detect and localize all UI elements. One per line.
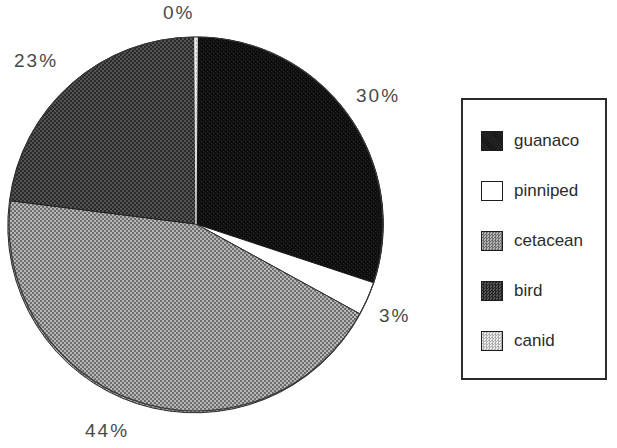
chart-legend: guanaco pinniped cetacean bird canid <box>461 98 607 380</box>
legend-item-canid: canid <box>481 316 605 366</box>
legend-item-cetacean: cetacean <box>481 216 605 266</box>
legend-label-pinniped: pinniped <box>514 181 578 201</box>
legend-swatch-bird <box>481 281 503 301</box>
legend-label-bird: bird <box>514 281 542 301</box>
pie-chart-figure: 0% 23% 30% 3% 44% guanaco pinniped cetac… <box>0 0 617 448</box>
legend-label-canid: canid <box>514 331 555 351</box>
legend-swatch-canid <box>481 331 503 351</box>
legend-label-cetacean: cetacean <box>514 231 583 251</box>
legend-swatch-cetacean <box>481 231 503 251</box>
pie-chart-area: 0% 23% 30% 3% 44% <box>0 0 450 448</box>
legend-swatch-guanaco <box>481 131 503 151</box>
pie-label-canid: 0% <box>163 2 194 24</box>
pie-label-pinniped: 3% <box>379 305 410 327</box>
pie-label-bird: 23% <box>14 50 58 72</box>
pie-chart-svg <box>0 0 450 448</box>
legend-label-guanaco: guanaco <box>514 131 579 151</box>
legend-item-guanaco: guanaco <box>481 116 605 166</box>
pie-label-guanaco: 30% <box>356 85 400 107</box>
legend-item-pinniped: pinniped <box>481 166 605 216</box>
pie-label-cetacean: 44% <box>85 420 129 442</box>
legend-swatch-pinniped <box>481 181 503 201</box>
legend-item-bird: bird <box>481 266 605 316</box>
